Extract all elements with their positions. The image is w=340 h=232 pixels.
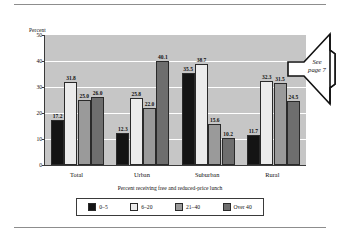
bar-value-label: 38.7	[197, 57, 207, 63]
bar-slot: 35.5	[182, 35, 195, 165]
legend-label: 0–5	[99, 204, 107, 210]
bar-value-label: 32.3	[262, 74, 272, 80]
bar[interactable]	[143, 108, 156, 165]
bar-slot: 26.0	[91, 35, 104, 165]
bar[interactable]	[130, 98, 143, 165]
legend-label: Over 40	[234, 204, 252, 210]
bar-value-label: 40.1	[158, 54, 168, 60]
bar-group: 35.538.715.610.2	[176, 35, 241, 165]
y-tick-label: 40	[36, 58, 42, 64]
bar-slot: 17.2	[51, 35, 64, 165]
bar-value-label: 22.0	[145, 101, 155, 107]
bar-slot: 40.1	[156, 35, 169, 165]
bar-value-label: 12.3	[118, 126, 128, 132]
bar[interactable]	[91, 97, 104, 165]
legend-item[interactable]: 0–5	[88, 203, 107, 211]
x-axis-title: Percent receiving free and reduced-price…	[0, 185, 340, 191]
bar[interactable]	[287, 101, 300, 165]
bar-group: 17.231.825.026.0	[45, 35, 110, 165]
bar-value-label: 31.8	[66, 75, 76, 81]
y-tick-label: 0	[39, 162, 42, 168]
bar-value-label: 31.5	[275, 76, 285, 82]
page-rule-top	[14, 4, 326, 5]
x-category-label: Rural	[265, 171, 279, 178]
bar-value-label: 25.0	[79, 93, 89, 99]
bar-value-label: 11.7	[249, 128, 258, 134]
y-tick-label: 30	[36, 84, 42, 90]
legend-label: 6–20	[141, 204, 152, 210]
bar[interactable]	[78, 100, 91, 165]
see-page-callout[interactable]: See page 7	[286, 32, 338, 106]
bar-value-label: 10.2	[223, 131, 233, 137]
bar-slot: 31.8	[64, 35, 77, 165]
bar-value-label: 15.6	[210, 117, 220, 123]
callout-text: See page 7	[298, 58, 336, 74]
bar-slot: 25.0	[78, 35, 91, 165]
bar[interactable]	[156, 61, 169, 165]
bar-slot: 22.0	[143, 35, 156, 165]
bar-slot: 12.3	[116, 35, 129, 165]
chart-legend: 0–56–2021–40Over 40	[76, 198, 264, 216]
bar-slot: 15.6	[208, 35, 221, 165]
bar-slot: 10.2	[221, 35, 234, 165]
legend-swatch	[175, 203, 183, 211]
bar[interactable]	[208, 124, 221, 165]
y-tick-label: 10	[36, 136, 42, 142]
bar-value-label: 35.5	[183, 66, 193, 72]
bar-slot: 25.8	[130, 35, 143, 165]
bar-slot: 38.7	[195, 35, 208, 165]
legend-item[interactable]: Over 40	[223, 203, 252, 211]
bar[interactable]	[274, 83, 287, 165]
bar[interactable]	[116, 133, 129, 165]
bar-slot: 31.5	[273, 35, 286, 165]
bar[interactable]	[51, 120, 64, 165]
y-tick-label: 20	[36, 110, 42, 116]
page-rule-bottom	[14, 227, 326, 228]
legend-item[interactable]: 6–20	[130, 203, 152, 211]
legend-swatch	[130, 203, 138, 211]
bar-group: 12.325.822.040.1	[110, 35, 175, 165]
legend-swatch	[88, 203, 96, 211]
y-tick-label: 50	[36, 32, 42, 38]
bar-value-label: 17.2	[53, 113, 63, 119]
bar-value-label: 26.0	[93, 90, 103, 96]
bar-chart-figure: Percent 0102030405017.231.825.026.012.32…	[0, 8, 340, 224]
x-category-label: Urban	[134, 171, 150, 178]
x-category-label: Suburban	[195, 171, 220, 178]
bar[interactable]	[260, 81, 273, 165]
bar[interactable]	[222, 138, 235, 165]
callout-line-1: See	[298, 58, 336, 66]
legend-swatch	[223, 203, 231, 211]
x-category-label: Total	[70, 171, 83, 178]
legend-label: 21–40	[186, 204, 200, 210]
bar[interactable]	[195, 64, 208, 165]
legend-item[interactable]: 21–40	[175, 203, 200, 211]
y-tick-mark	[42, 165, 45, 166]
bar[interactable]	[182, 73, 195, 165]
bar[interactable]	[247, 135, 260, 165]
plot-area: 0102030405017.231.825.026.012.325.822.04…	[44, 35, 306, 166]
bar-value-label: 25.8	[131, 91, 141, 97]
bar-slot: 32.3	[260, 35, 273, 165]
callout-line-2: page 7	[298, 66, 336, 74]
bar-slot: 11.7	[247, 35, 260, 165]
bar[interactable]	[64, 82, 77, 165]
